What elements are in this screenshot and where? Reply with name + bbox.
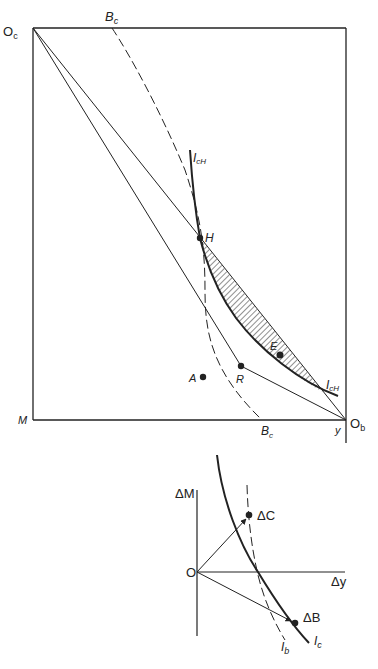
ic-indifference-curve <box>217 455 309 643</box>
label-E: E <box>270 340 278 352</box>
label-icH-top: IcH <box>193 151 206 166</box>
label-origin-c: Oc <box>3 24 18 41</box>
bc-dashed-curve <box>112 28 262 420</box>
point-A <box>200 374 206 380</box>
label-delta-b: ΔB <box>303 610 320 625</box>
label-y: y <box>334 424 342 436</box>
label-bc-bottom: Bc <box>261 424 273 440</box>
label-origin-o: O <box>186 565 196 580</box>
arrow-o-to-delta-b <box>197 572 291 621</box>
label-icH-bottom: IcH <box>326 378 339 393</box>
label-ib: Ib <box>281 640 289 656</box>
label-delta-y: Δy <box>331 574 347 589</box>
line-oc-h-ob <box>33 28 346 420</box>
point-H <box>197 235 203 241</box>
label-origin-b: Ob <box>350 416 365 433</box>
upper-diagram: Oc Bc IcH H E R A IcH M Bc y Ob <box>3 9 365 443</box>
point-E <box>277 352 284 359</box>
label-bc-top: Bc <box>105 9 119 26</box>
label-H: H <box>205 231 214 245</box>
lower-diagram: ΔM O ΔC Δy ΔB Ib Ic <box>175 455 347 656</box>
label-R: R <box>236 373 244 385</box>
hatched-lens-region <box>200 238 323 392</box>
label-delta-m: ΔM <box>175 486 195 501</box>
point-delta-c <box>246 512 253 519</box>
label-M: M <box>18 414 28 426</box>
point-R <box>238 363 244 369</box>
arrow-o-to-delta-c <box>197 519 246 572</box>
line-oc-r <box>33 28 241 366</box>
label-ic: Ic <box>314 634 322 650</box>
point-delta-b <box>292 620 299 627</box>
edgeworth-box-diagram: Oc Bc IcH H E R A IcH M Bc y Ob ΔM O ΔC … <box>0 0 378 669</box>
icH-indifference-curve <box>190 150 338 396</box>
label-delta-c: ΔC <box>257 508 275 523</box>
label-A: A <box>188 372 196 384</box>
